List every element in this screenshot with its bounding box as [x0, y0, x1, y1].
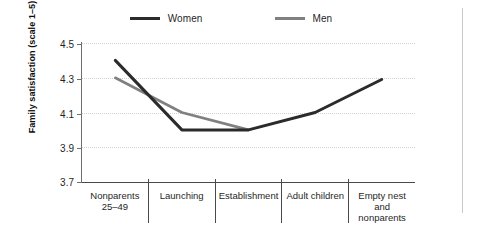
x-category-label-line2: 25–49	[82, 201, 148, 212]
y-tick-label-4-5: 4.5	[60, 39, 74, 50]
x-category-label-line1: Establishment	[216, 190, 282, 201]
legend-label-women: Women	[168, 13, 203, 24]
legend-item-men: Men	[275, 13, 333, 24]
y-tick-label-3-9: 3.9	[60, 143, 74, 154]
x-category-label-line2: nonparents 50+	[349, 212, 415, 226]
series-lines	[82, 43, 415, 182]
x-category-label-line1: Launching	[149, 190, 215, 201]
x-category-establishment: Establishment	[215, 183, 282, 223]
plot-area: 4.5 4.3 4.1 3.9 3.7	[82, 43, 415, 182]
right-border-rule	[462, 8, 463, 213]
y-tick-label-4-1: 4.1	[60, 108, 74, 119]
legend-swatch-men	[275, 17, 305, 20]
x-category-launching: Launching	[148, 183, 215, 223]
x-tick-mark	[215, 179, 216, 183]
legend-swatch-women	[130, 17, 160, 20]
legend-item-women: Women	[130, 13, 203, 24]
chart-legend: Women Men	[0, 9, 462, 27]
x-axis-categories: Nonparents 25–49 Launching Establishment…	[82, 183, 415, 223]
y-tick-label-4-3: 4.3	[60, 73, 74, 84]
data-line-men	[115, 78, 248, 130]
x-tick-mark	[148, 179, 149, 183]
y-axis-title: Family satisfaction (scale 1–5)	[27, 0, 37, 143]
x-category-adult-children: Adult children	[281, 183, 348, 223]
y-tick-label-3-7: 3.7	[60, 177, 74, 188]
x-category-nonparents-25-49: Nonparents 25–49	[82, 183, 148, 223]
x-category-empty-nest-nonparents-50plus: Empty nest and nonparents 50+	[348, 183, 415, 223]
data-line-women	[115, 60, 381, 130]
x-tick-mark	[348, 179, 349, 183]
legend-label-men: Men	[313, 13, 333, 24]
x-category-label-line1: Empty nest and	[349, 190, 415, 212]
chart-figure: Women Men Family satisfaction (scale 1–5…	[0, 0, 485, 226]
x-tick-mark	[281, 179, 282, 183]
x-category-label-line1: Adult children	[282, 190, 348, 201]
x-category-label-line1: Nonparents	[82, 190, 148, 201]
